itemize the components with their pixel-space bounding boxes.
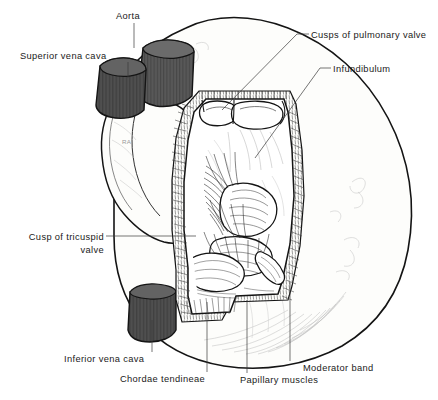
label-inferior-vena-cava: Inferior vena cava — [64, 353, 144, 366]
label-chordae-tendineae: Chordae tendineae — [120, 373, 205, 386]
heart-anatomy-figure: Aorta Superior vena cava Cusps of pulmon… — [0, 0, 438, 400]
label-papillary-muscles: Papillary muscles — [240, 374, 318, 387]
label-moderator-band: Moderator band — [303, 362, 374, 375]
right-ventricle-cut-window — [172, 91, 304, 322]
label-cusps-of-pulmonary-valve: Cusps of pulmonary valve — [311, 29, 426, 42]
superior-vena-cava-vessel — [96, 58, 146, 118]
label-aorta: Aorta — [116, 10, 140, 23]
label-right-atrium-abbrev: RA — [122, 138, 131, 145]
pulmonary-valve-cusps — [200, 100, 285, 129]
label-cusp-of-tricuspid-valve: Cusp of tricuspid valve — [8, 231, 104, 256]
label-superior-vena-cava: Superior vena cava — [20, 50, 106, 63]
label-infundibulum: Infundibulum — [333, 63, 390, 76]
